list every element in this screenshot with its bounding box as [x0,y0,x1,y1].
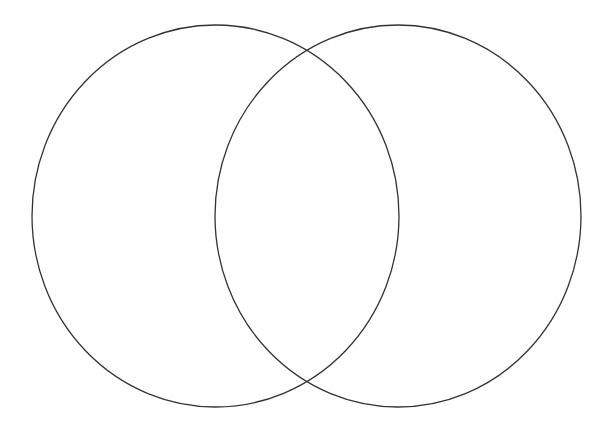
venn-diagram [0,0,610,429]
venn-diagram-canvas [0,0,610,429]
right-set-circle [215,25,581,407]
